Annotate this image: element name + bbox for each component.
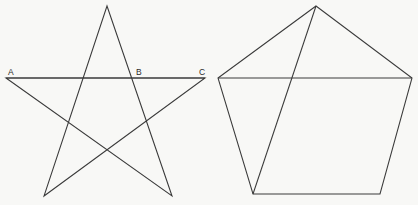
vertex-label-c: C [199,67,205,77]
pentagon-diagonal-line [253,6,316,194]
vertex-label-b: B [136,67,142,77]
geometry-figure-canvas: A B C [0,0,418,205]
pentagon-outline [218,6,412,194]
vertex-label-a: A [8,67,14,77]
pentagram-star [6,6,205,196]
